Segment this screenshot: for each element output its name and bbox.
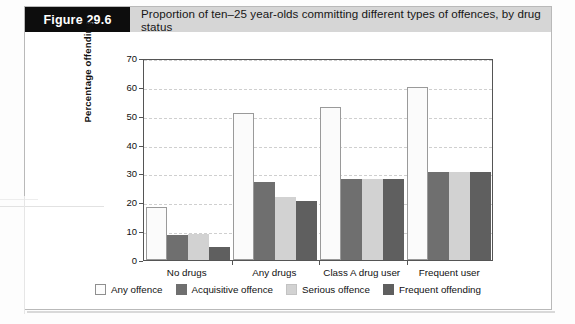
x-axis-category-label: Any drugs [231, 267, 319, 278]
y-tick-label: 20 [115, 198, 137, 208]
legend-label: Serious offence [302, 284, 370, 295]
figure-container: Figure 29.6 Proportion of ten–25 year-ol… [0, 0, 575, 324]
bar-group [144, 60, 231, 260]
legend-item[interactable]: Frequent offending [383, 284, 481, 295]
figure-number-badge: Figure 29.6 [25, 7, 130, 32]
bar[interactable] [470, 172, 491, 260]
bar[interactable] [296, 201, 317, 260]
legend-item[interactable]: Acquisitive offence [176, 284, 274, 295]
bar-group [405, 60, 492, 260]
y-tick-label: 50 [115, 112, 137, 122]
legend-swatch [95, 284, 106, 295]
legend-label: Acquisitive offence [192, 284, 274, 295]
legend-item[interactable]: Serious offence [286, 284, 370, 295]
x-tick-mark [407, 260, 408, 265]
chart-legend: Any offenceAcquisitive offenceSerious of… [25, 284, 551, 295]
bar[interactable] [188, 234, 209, 260]
bar[interactable] [146, 207, 167, 260]
x-axis-category-label: No drugs [143, 267, 231, 278]
figure-header: Figure 29.6 Proportion of ten–25 year-ol… [25, 7, 551, 32]
bar[interactable] [383, 179, 404, 260]
bar[interactable] [428, 172, 449, 260]
bar[interactable] [209, 247, 230, 260]
chart-area: Percentage offending 010203040506070 No … [25, 32, 551, 309]
bar[interactable] [233, 113, 254, 260]
y-tick-mark [139, 261, 143, 262]
legend-label: Any offence [111, 284, 163, 295]
bar[interactable] [341, 179, 362, 260]
x-axis-category-label: Class A drug user [318, 267, 406, 278]
bar[interactable] [449, 172, 470, 260]
legend-item[interactable]: Any offence [95, 284, 163, 295]
y-tick-label: 70 [115, 54, 137, 64]
y-tick-label: 40 [115, 141, 137, 151]
bar-group [318, 60, 405, 260]
figure-caption: Proportion of ten–25 year-olds committin… [130, 7, 551, 32]
x-tick-mark [319, 260, 320, 265]
y-tick-label: 30 [115, 169, 137, 179]
legend-swatch [286, 284, 297, 295]
x-axis-labels: No drugsAny drugsClass A drug userFreque… [143, 267, 493, 278]
bar[interactable] [167, 235, 188, 260]
legend-swatch [176, 284, 187, 295]
y-axis-title: Percentage offending [82, 17, 93, 127]
bar[interactable] [254, 182, 275, 260]
x-axis-category-label: Frequent user [406, 267, 494, 278]
x-tick-mark [232, 260, 233, 265]
legend-swatch [383, 284, 394, 295]
figure-frame-shadow [27, 311, 555, 313]
bar[interactable] [275, 197, 296, 260]
y-tick-label: 0 [115, 256, 137, 266]
bar[interactable] [320, 107, 341, 260]
plot-area [143, 59, 493, 261]
y-tick-label: 10 [115, 227, 137, 237]
y-tick-label: 60 [115, 83, 137, 93]
bar-groups [144, 60, 492, 260]
bar[interactable] [362, 179, 383, 260]
bar[interactable] [407, 87, 428, 260]
bar-group [231, 60, 318, 260]
legend-label: Frequent offending [399, 284, 481, 295]
